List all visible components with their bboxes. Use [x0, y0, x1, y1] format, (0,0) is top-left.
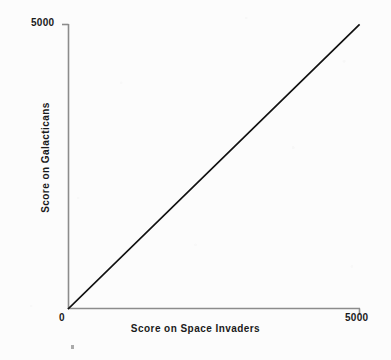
plot-area: [0, 0, 391, 360]
chart-screenshot: 5000 0 5000 Score on Space Invaders Scor…: [0, 0, 391, 360]
data-line-identity: [69, 25, 360, 309]
x-axis-title: Score on Space Invaders: [0, 323, 391, 334]
x-axis-tick-label-min: 0: [59, 312, 65, 323]
y-axis-title: Score on Galacticans: [40, 58, 51, 258]
scan-speck-artifact: [71, 345, 74, 349]
x-axis-tick-label-max: 5000: [345, 312, 368, 323]
y-axis-tick-label-max: 5000: [31, 17, 54, 28]
